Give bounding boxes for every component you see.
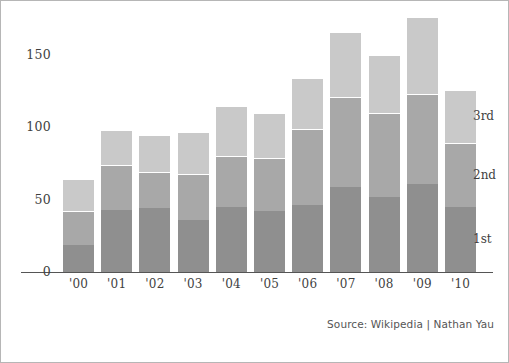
x-tick-label: '05 bbox=[254, 278, 285, 290]
bar-segment-2nd bbox=[254, 158, 285, 212]
bar-segment-3rd bbox=[101, 130, 132, 165]
x-tick-label: '00 bbox=[63, 278, 94, 290]
y-tick-label: 100 bbox=[5, 121, 51, 134]
x-tick-label: '10 bbox=[445, 278, 476, 290]
bar-segment-2nd bbox=[407, 94, 438, 184]
bar-segment-2nd bbox=[330, 97, 361, 187]
bar-segment-1st bbox=[407, 184, 438, 272]
source-caption: Source: Wikipedia | Nathan Yau bbox=[327, 318, 494, 330]
bar-segment-3rd bbox=[63, 179, 94, 211]
x-tick-label: '07 bbox=[330, 278, 361, 290]
bar-segment-1st bbox=[330, 187, 361, 272]
bar-07 bbox=[330, 32, 361, 272]
bar-segment-2nd bbox=[445, 143, 476, 207]
bar-01 bbox=[101, 130, 132, 272]
series-label-3rd: 3rd bbox=[473, 110, 494, 122]
x-tick-label: '01 bbox=[101, 278, 132, 290]
bar-03 bbox=[178, 132, 209, 272]
bar-05 bbox=[254, 113, 285, 272]
bar-segment-1st bbox=[254, 211, 285, 272]
bar-segment-3rd bbox=[445, 90, 476, 144]
bar-segment-1st bbox=[445, 207, 476, 272]
x-axis-line bbox=[21, 272, 493, 273]
chart-figure: 050100150 '00'01'02'03'04'05'06'07'08'09… bbox=[0, 0, 509, 363]
bar-00 bbox=[63, 179, 94, 272]
bar-segment-2nd bbox=[292, 129, 323, 206]
bar-segment-1st bbox=[178, 220, 209, 272]
bar-segment-1st bbox=[101, 210, 132, 272]
bar-segment-2nd bbox=[178, 174, 209, 220]
bar-08 bbox=[369, 55, 400, 272]
bar-segment-3rd bbox=[254, 113, 285, 158]
bar-segment-3rd bbox=[178, 132, 209, 174]
bar-06 bbox=[292, 78, 323, 272]
bar-segment-2nd bbox=[369, 113, 400, 197]
x-tick-label: '02 bbox=[139, 278, 170, 290]
y-tick-label: 50 bbox=[5, 194, 51, 207]
bar-segment-1st bbox=[216, 207, 247, 272]
bar-segment-1st bbox=[139, 208, 170, 272]
bar-segment-2nd bbox=[63, 211, 94, 244]
bar-segment-3rd bbox=[330, 32, 361, 97]
plot-area: 050100150 '00'01'02'03'04'05'06'07'08'09… bbox=[1, 1, 509, 363]
x-tick-label: '09 bbox=[407, 278, 438, 290]
bar-segment-3rd bbox=[139, 135, 170, 173]
bar-segment-1st bbox=[63, 245, 94, 272]
series-label-2nd: 2nd bbox=[473, 169, 496, 181]
bar-segment-2nd bbox=[216, 156, 247, 207]
bar-02 bbox=[139, 135, 170, 272]
bar-segment-3rd bbox=[407, 17, 438, 94]
bar-segment-3rd bbox=[292, 78, 323, 129]
bar-segment-3rd bbox=[216, 106, 247, 157]
bar-segment-1st bbox=[292, 205, 323, 272]
y-tick-label: 150 bbox=[5, 49, 51, 62]
x-tick-label: '04 bbox=[216, 278, 247, 290]
y-tick-label: 0 bbox=[5, 266, 51, 279]
bar-segment-1st bbox=[369, 197, 400, 272]
bar-segment-2nd bbox=[139, 172, 170, 208]
series-label-1st: 1st bbox=[473, 233, 492, 245]
x-tick-label: '06 bbox=[292, 278, 323, 290]
bar-segment-3rd bbox=[369, 55, 400, 113]
x-tick-label: '08 bbox=[369, 278, 400, 290]
bar-10 bbox=[445, 90, 476, 272]
bar-04 bbox=[216, 106, 247, 272]
bar-segment-2nd bbox=[101, 165, 132, 210]
bar-09 bbox=[407, 17, 438, 272]
x-tick-label: '03 bbox=[178, 278, 209, 290]
